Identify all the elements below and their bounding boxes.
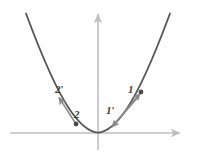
label-point-2: 2 xyxy=(74,109,80,120)
axes-group xyxy=(10,14,180,150)
label-point-1: 1 xyxy=(128,84,134,95)
label-vector-1-prime: 1′ xyxy=(106,105,115,116)
figure-canvas xyxy=(0,0,198,158)
curve-point-1 xyxy=(139,90,144,95)
curve-point-2 xyxy=(74,122,79,127)
parabola-tangent-vectors-figure: 1 1′ 2 2′ xyxy=(0,0,198,158)
tangent-vector-1-reverse xyxy=(112,96,139,127)
label-vector-2-prime: 2′ xyxy=(55,84,64,95)
